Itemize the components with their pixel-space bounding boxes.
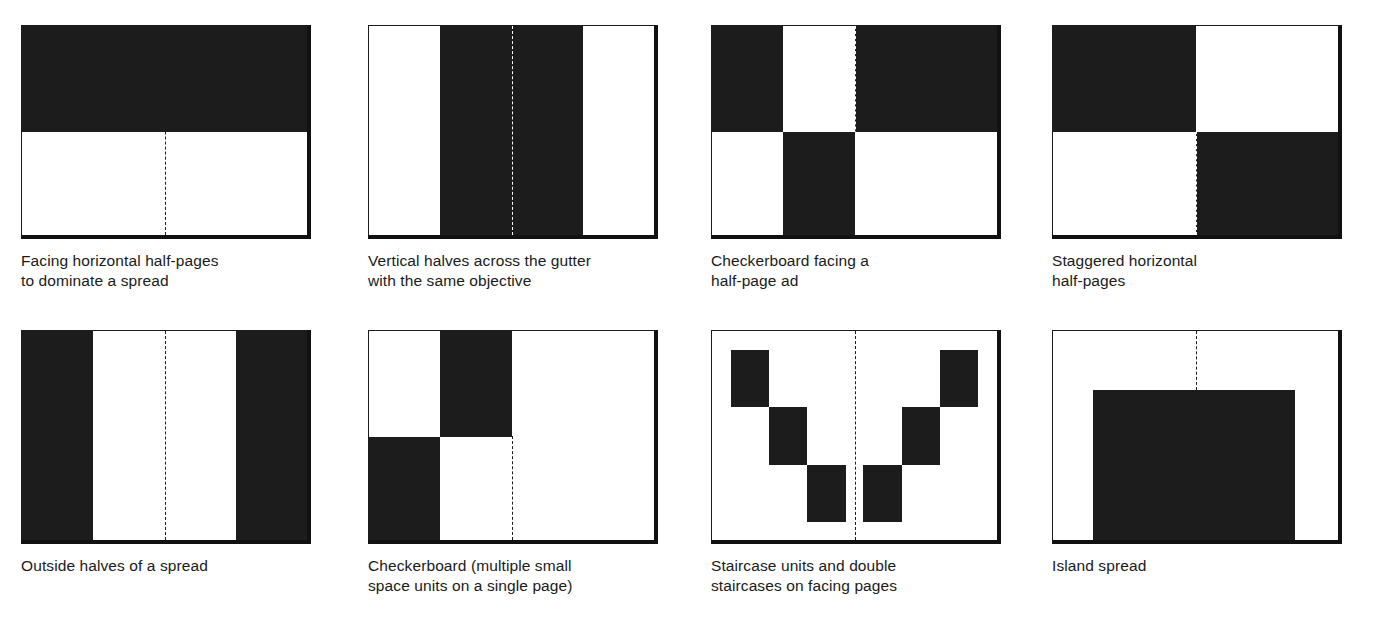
gutter-line [512, 26, 513, 235]
block-top-left-half [1053, 26, 1196, 132]
figure-caption: Checkerboard (multiple small space units… [368, 556, 678, 596]
spread-canvas [712, 26, 997, 235]
spread-canvas [22, 26, 307, 235]
spread-box [21, 25, 311, 239]
block-island-rectangle [1093, 390, 1295, 540]
figure-caption: Staircase units and double staircases on… [711, 556, 1021, 596]
gutter-line [1196, 331, 1197, 390]
spread-box [21, 330, 311, 544]
gutter-line [165, 331, 166, 540]
block-left-step-1 [731, 350, 769, 407]
spread-canvas [1053, 26, 1338, 235]
figure-island-spread: Island spread [1052, 330, 1372, 576]
block-right-step-3 [940, 350, 978, 407]
spread-canvas [1053, 331, 1338, 540]
block-right-outer-band [236, 331, 307, 540]
block-left-outer-band [22, 331, 93, 540]
figure-grid: Facing horizontal half-pages to dominate… [0, 0, 1374, 626]
block-left-step-3 [807, 465, 845, 522]
spread-box [711, 25, 1001, 239]
spread-canvas [369, 26, 654, 235]
block-top-right-half [855, 26, 998, 132]
gutter-line-top [512, 331, 513, 436]
figure-outside-halves-of-a-spread: Outside halves of a spread [21, 330, 341, 576]
block-top-left-quarter [712, 26, 783, 132]
gutter-line [855, 331, 856, 540]
block-bottom-inner-quarter [783, 132, 854, 235]
gutter-line [855, 26, 856, 235]
spread-box [1052, 25, 1342, 239]
figure-caption: Island spread [1052, 556, 1362, 576]
block-bottom-right-half [1196, 132, 1339, 235]
figure-checkerboard-single-page: Checkerboard (multiple small space units… [368, 330, 688, 596]
figure-caption: Checkerboard facing a half-page ad [711, 251, 1021, 291]
gutter-line [165, 26, 166, 235]
block-right-step-2 [902, 407, 940, 464]
spread-box [368, 25, 658, 239]
spread-box [368, 330, 658, 544]
figure-caption: Vertical halves across the gutter with t… [368, 251, 678, 291]
figure-staggered-horizontal-half-pages: Staggered horizontal half-pages [1052, 25, 1372, 291]
figure-caption: Outside halves of a spread [21, 556, 331, 576]
spread-canvas [22, 331, 307, 540]
block-left-step-2 [769, 407, 807, 464]
gutter-line-bottom [512, 436, 513, 541]
spread-box [1052, 330, 1342, 544]
gutter-line-bottom [1196, 131, 1197, 236]
figure-caption: Staggered horizontal half-pages [1052, 251, 1362, 291]
spread-canvas [369, 331, 654, 540]
block-top-inner-quarter [440, 331, 511, 437]
spread-canvas [712, 331, 997, 540]
figure-vertical-halves-across-gutter: Vertical halves across the gutter with t… [368, 25, 688, 291]
figure-facing-horizontal-half-pages: Facing horizontal half-pages to dominate… [21, 25, 341, 291]
gutter-line-top [1196, 26, 1197, 131]
block-right-step-1 [863, 465, 901, 522]
block-bottom-outer-quarter [369, 437, 440, 540]
figure-checkerboard-facing-half-page-ad: Checkerboard facing a half-page ad [711, 25, 1031, 291]
figure-staircase-units-facing-pages: Staircase units and double staircases on… [711, 330, 1031, 596]
figure-caption: Facing horizontal half-pages to dominate… [21, 251, 331, 291]
spread-box [711, 330, 1001, 544]
